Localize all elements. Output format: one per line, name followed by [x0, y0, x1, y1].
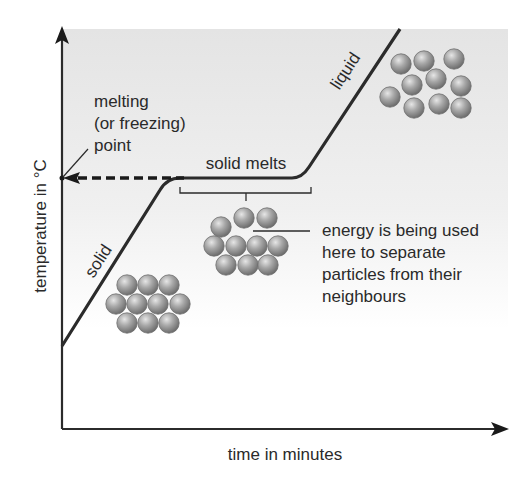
solid-particles [106, 275, 190, 333]
melting-point-label-line1: melting [94, 92, 149, 111]
annotation-line2: here to separate [322, 243, 446, 262]
annotation-line4: neighbours [322, 287, 406, 306]
melting-point-label-line3: point [94, 136, 131, 155]
melting-point-label-line2: (or freezing) [94, 114, 186, 133]
annotation-line1: energy is being used [322, 221, 479, 240]
x-axis-label: time in minutes [228, 445, 342, 464]
y-axis-label: temperature in °C [31, 159, 50, 292]
annotation-line3: particles from their [322, 265, 462, 284]
heating-curve-diagram: melting (or freezing) point solid melts … [0, 0, 530, 482]
plateau-label: solid melts [206, 154, 286, 173]
